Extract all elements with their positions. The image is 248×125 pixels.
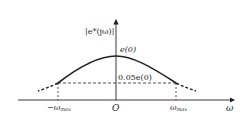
spectrum-tail-right <box>176 83 196 91</box>
y-axis-label: |e*(jω)| <box>85 27 114 36</box>
spectrum-diagram: |e*(jω)| e(0) 0.05e(0) O ω −ωmax ωmax <box>0 0 248 125</box>
spectrum-curve <box>58 56 176 83</box>
origin-label: O <box>112 103 120 113</box>
spectrum-tail-left <box>38 83 58 91</box>
neg-cutoff-label: −ωmax <box>47 103 71 112</box>
pos-cutoff-label: ωmax <box>170 103 187 112</box>
threshold-label: 0.05e(0) <box>118 73 152 82</box>
peak-label: e(0) <box>120 45 136 54</box>
x-axis-label: ω <box>226 103 234 113</box>
